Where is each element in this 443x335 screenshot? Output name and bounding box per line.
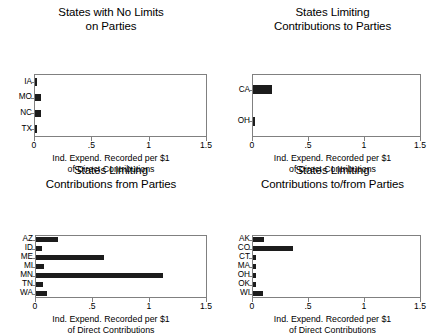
y-tick-mark: [249, 258, 252, 259]
y-axis-labels: CAOH: [222, 74, 250, 137]
x-tick-label-0: 0: [32, 141, 37, 150]
bar-co: [253, 246, 293, 250]
y-tick-mark: [32, 285, 35, 286]
bar-row: [35, 94, 206, 102]
y-tick-mark: [32, 240, 35, 241]
bar-row: [36, 282, 206, 286]
y-tick-mark: [249, 90, 252, 91]
bar-row: [253, 237, 420, 241]
bar-me: [36, 255, 104, 259]
bar-oh: [253, 273, 256, 277]
y-axis-labels: IAMONCTX: [0, 74, 32, 137]
bar-row: [35, 78, 206, 86]
bars-layer: [35, 74, 206, 137]
x-tick-label-3: 1.5: [414, 141, 426, 150]
bar-ct: [253, 255, 256, 259]
panel-title: States Limiting Contributions to/from Pa…: [222, 160, 443, 191]
bar-row: [253, 282, 420, 286]
bar-row: [253, 246, 420, 250]
x-axis: 0.511.5: [34, 137, 207, 153]
bar-ok: [253, 282, 256, 286]
panel-title: States Limiting Contributions to Parties: [222, 0, 443, 33]
bar-ca: [253, 85, 272, 94]
panel-title: States with No Limits on Parties: [0, 0, 222, 33]
bars-layer: [253, 74, 420, 137]
bar-row: [36, 273, 206, 277]
y-tick-mark: [249, 294, 252, 295]
x-axis-title: Ind. Expend. Recorded per $1 of Direct C…: [0, 314, 222, 335]
bar-row: [253, 273, 420, 277]
bar-row: [36, 246, 206, 250]
y-tick-mark: [249, 276, 252, 277]
bar-ma: [253, 264, 256, 268]
bar-row: [253, 264, 420, 268]
x-tick-label-1: .5: [88, 302, 95, 311]
x-tick-label-2: 1: [146, 141, 151, 150]
x-tick-label-3: 1.5: [414, 302, 426, 311]
y-tick-mark: [32, 249, 35, 250]
x-tick-label-1: .5: [88, 141, 95, 150]
bar-mn: [36, 273, 163, 277]
bar-mo: [35, 94, 41, 102]
bar-id: [36, 246, 42, 250]
y-axis-labels: AZIDMEMIMNTNWA: [0, 235, 33, 298]
bar-ak: [253, 237, 264, 241]
bar-mi: [36, 264, 44, 268]
y-tick-mark: [31, 113, 34, 114]
bar-ia: [35, 78, 37, 86]
bar-row: [36, 291, 206, 295]
bars-layer: [253, 235, 420, 298]
y-tick-mark: [249, 240, 252, 241]
x-tick-label-3: 1.5: [200, 302, 212, 311]
panel-limiting-contributions-to-parties: States Limiting Contributions to Parties…: [222, 0, 443, 160]
x-tick-label-3: 1.5: [200, 141, 212, 150]
x-tick-label-2: 1: [362, 141, 367, 150]
bar-row: [253, 255, 420, 259]
x-tick-label-1: .5: [304, 302, 311, 311]
y-tick-mark: [31, 82, 34, 83]
x-axis: 0.511.5: [252, 298, 421, 314]
bar-tn: [36, 282, 43, 286]
panel-limiting-contributions-to-from-parties: States Limiting Contributions to/from Pa…: [222, 160, 443, 317]
y-tick-mark: [249, 249, 252, 250]
y-tick-mark: [32, 294, 35, 295]
x-tick-label-0: 0: [250, 141, 255, 150]
x-tick-label-1: .5: [304, 141, 311, 150]
bar-az: [36, 237, 58, 241]
bar-row: [36, 264, 206, 268]
bar-row: [35, 110, 206, 118]
y-axis-labels: AKCOCTMAOHOKWI: [222, 235, 250, 298]
bar-row: [36, 237, 206, 241]
x-tick-label-0: 0: [250, 302, 255, 311]
x-tick-label-2: 1: [147, 302, 152, 311]
bar-row: [253, 291, 420, 295]
bar-row: [253, 117, 420, 126]
x-tick-label-2: 1: [362, 302, 367, 311]
y-tick-mark: [32, 276, 35, 277]
bar-row: [253, 85, 420, 94]
x-axis-title: Ind. Expend. Recorded per $1 of Direct C…: [222, 314, 443, 335]
bar-row: [35, 125, 206, 133]
bar-wa: [36, 291, 47, 295]
panel-title: States Limiting Contributions from Parti…: [0, 160, 222, 191]
y-tick-mark: [31, 98, 34, 99]
y-tick-mark: [249, 121, 252, 122]
bar-oh: [253, 117, 255, 126]
y-tick-mark: [31, 129, 34, 130]
bar-tx: [35, 125, 37, 133]
panel-limiting-contributions-from-parties: States Limiting Contributions from Parti…: [0, 160, 222, 317]
bar-wi: [253, 291, 263, 295]
bar-row: [36, 255, 206, 259]
y-tick-mark: [249, 267, 252, 268]
panel-no-limits-on-parties: States with No Limits on Parties IAMONCT…: [0, 0, 222, 160]
x-axis: 0.511.5: [35, 298, 207, 314]
bar-nc: [35, 110, 41, 118]
x-tick-label-0: 0: [33, 302, 38, 311]
y-tick-mark: [249, 285, 252, 286]
y-tick-mark: [32, 267, 35, 268]
y-tick-mark: [32, 258, 35, 259]
bars-layer: [36, 235, 206, 298]
x-axis: 0.511.5: [252, 137, 421, 153]
